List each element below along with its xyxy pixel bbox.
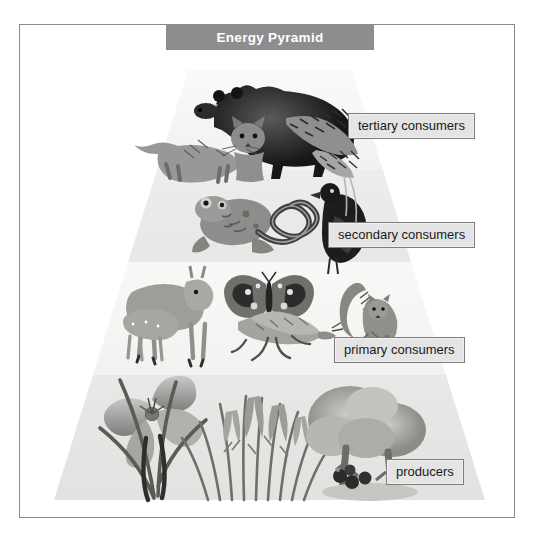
label-tertiary-consumers-text: tertiary consumers — [358, 118, 465, 133]
label-producers: producers — [386, 459, 464, 485]
label-tertiary-consumers: tertiary consumers — [348, 113, 475, 139]
page-title: Energy Pyramid — [217, 30, 324, 45]
figure-title-bar: Energy Pyramid — [166, 24, 374, 50]
label-primary-consumers-text: primary consumers — [344, 342, 455, 357]
label-producers-text: producers — [396, 464, 454, 479]
tier-secondary — [128, 170, 411, 262]
label-secondary-consumers: secondary consumers — [328, 222, 475, 248]
label-primary-consumers: primary consumers — [334, 337, 465, 363]
label-secondary-consumers-text: secondary consumers — [338, 227, 465, 242]
energy-pyramid-figure: Energy Pyramid tertiary consumers second… — [0, 0, 537, 539]
